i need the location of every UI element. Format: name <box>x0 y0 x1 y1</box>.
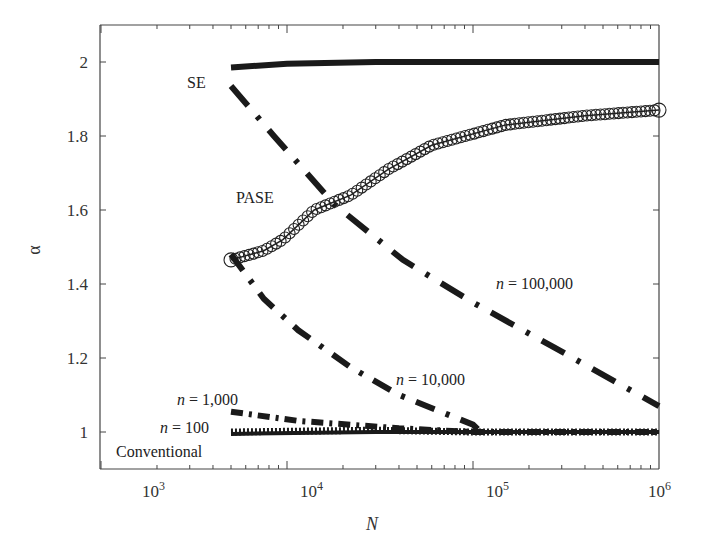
series-pase-markers <box>224 103 666 267</box>
x-axis-tick-labels: 103 104 105 106 <box>142 479 671 501</box>
x-axis-title: N <box>365 514 379 534</box>
y-tick-label: 1.2 <box>67 349 88 368</box>
annotation-n-10000: n = 10,000 <box>396 371 465 388</box>
y-tick-label: 1.6 <box>67 201 88 220</box>
y-tick-label: 1.4 <box>67 275 89 294</box>
annotation-conventional: Conventional <box>116 443 203 460</box>
annotation-n-1000: n = 1,000 <box>177 391 238 408</box>
y-axis-title: α <box>24 245 44 255</box>
x-tick-label: 106 <box>648 479 671 501</box>
y-tick-label: 1 <box>80 423 89 442</box>
series-conventional <box>231 432 659 434</box>
y-tick-label: 2 <box>80 53 89 72</box>
y-tick-label: 1.8 <box>67 127 88 146</box>
annotation-n-100: n = 100 <box>160 419 209 436</box>
series-se <box>231 62 659 68</box>
annotation-pase: PASE <box>236 189 274 206</box>
series-n-100000 <box>231 86 659 406</box>
x-tick-label: 105 <box>486 479 509 501</box>
annotation-n-100000: n = 100,000 <box>496 275 573 292</box>
chart: 1 1.2 1.4 1.6 1.8 2 103 104 105 106 N α … <box>0 0 708 553</box>
y-axis-tick-labels: 1 1.2 1.4 1.6 1.8 2 <box>67 53 89 442</box>
annotations: SE PASE n = 100,000 n = 10,000 n = 1,000… <box>116 74 573 460</box>
annotation-se: SE <box>187 74 206 91</box>
series-pase-line <box>231 110 659 260</box>
x-tick-label: 103 <box>142 479 165 501</box>
x-tick-label: 104 <box>300 479 323 501</box>
